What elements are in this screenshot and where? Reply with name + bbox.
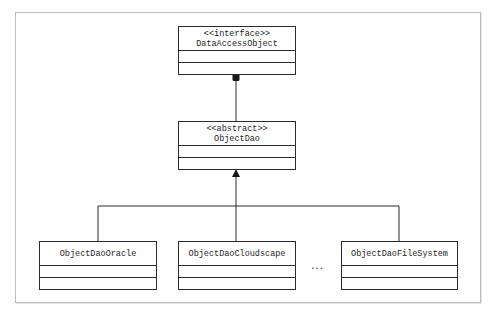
class-name-compartment: ObjectDaoFileSystem [342,242,457,266]
class-name: ObjectDaoOracle [60,249,137,259]
class-object-dao-filesystem[interactable]: ObjectDaoFileSystem [341,241,458,290]
attributes-compartment [179,146,295,158]
class-data-access-object[interactable]: <<interface>> DataAccessObject [178,26,296,75]
class-name-compartment: <<abstract>> ObjectDao [179,122,295,146]
class-stereotype: <<abstract>> [206,124,267,134]
class-object-dao-oracle[interactable]: ObjectDaoOracle [39,241,157,290]
operations-compartment [342,278,457,289]
attributes-compartment [40,266,156,278]
attributes-compartment [342,266,457,278]
filled-marker-icon [233,74,240,81]
class-stereotype: <<interface>> [204,29,270,39]
inheritance-arrowhead-icon [232,169,240,177]
more-implementations-ellipsis: ... [311,258,324,272]
operations-compartment [179,278,295,289]
operations-compartment [179,63,295,74]
attributes-compartment [179,51,295,63]
class-name: DataAccessObject [196,39,278,49]
class-name-compartment: ObjectDaoCloudscape [179,242,295,266]
operations-compartment [179,158,295,169]
class-name: ObjectDao [214,134,260,144]
class-name: ObjectDaoCloudscape [189,249,286,259]
class-name-compartment: ObjectDaoOracle [40,242,156,266]
attributes-compartment [179,266,295,278]
class-name-compartment: <<interface>> DataAccessObject [179,27,295,51]
class-object-dao-cloudscape[interactable]: ObjectDaoCloudscape [178,241,296,290]
operations-compartment [40,278,156,289]
class-object-dao[interactable]: <<abstract>> ObjectDao [178,121,296,170]
class-name: ObjectDaoFileSystem [351,249,448,259]
